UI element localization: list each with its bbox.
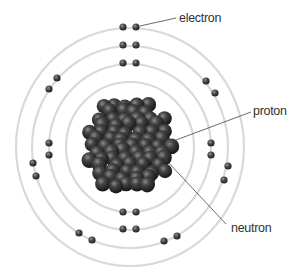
- electron: [160, 237, 167, 244]
- electron: [75, 229, 82, 236]
- electron: [220, 176, 227, 183]
- nucleon: [158, 164, 172, 178]
- electron: [132, 41, 139, 48]
- nucleon: [95, 176, 110, 191]
- electron: [45, 85, 52, 92]
- electron-leader-line: [140, 18, 176, 26]
- electron: [119, 23, 126, 30]
- electron: [53, 74, 60, 81]
- electron: [211, 89, 218, 96]
- proton-label: proton: [253, 104, 287, 118]
- atom-diagram: electron proton neutron: [0, 0, 290, 272]
- electron-label: electron: [179, 11, 221, 25]
- electron: [45, 151, 52, 158]
- nucleon: [109, 179, 124, 194]
- electron: [132, 208, 139, 215]
- electron: [202, 77, 209, 84]
- nucleus: [82, 97, 180, 193]
- electron: [119, 59, 126, 66]
- electron: [132, 23, 139, 30]
- electron: [32, 172, 39, 179]
- electron: [132, 59, 139, 66]
- electron: [29, 159, 36, 166]
- electron: [45, 139, 52, 146]
- electron: [119, 225, 126, 232]
- electron: [207, 151, 214, 158]
- nucleon: [139, 177, 155, 193]
- electron: [119, 41, 126, 48]
- electron: [88, 236, 95, 243]
- electron: [207, 139, 214, 146]
- electron: [224, 162, 231, 169]
- electron: [119, 208, 126, 215]
- labels: electron proton neutron: [179, 11, 287, 235]
- neutron-label: neutron: [231, 221, 272, 235]
- electron: [173, 232, 180, 239]
- electron: [132, 225, 139, 232]
